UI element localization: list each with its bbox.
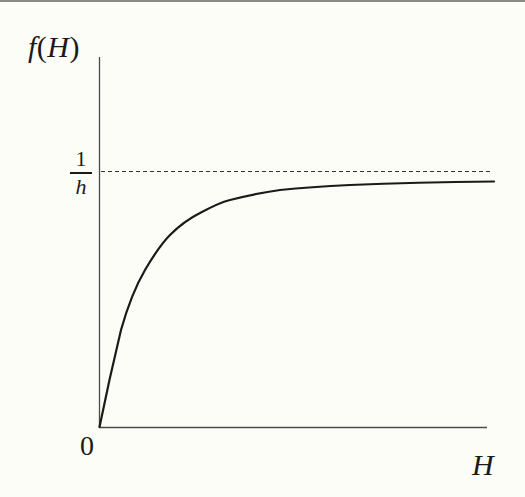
y-label-open-paren: (: [37, 30, 48, 63]
y-label-arg: H: [47, 30, 69, 63]
y-label-func: f: [28, 30, 37, 63]
y-axis-label: f(H): [28, 30, 80, 64]
y-label-close-paren: ): [70, 30, 81, 63]
asymptote-numerator: 1: [70, 148, 92, 170]
plot-area: [0, 0, 525, 497]
saturation-curve: [100, 182, 495, 428]
asymptote-denominator: h: [70, 176, 92, 198]
origin-label: 0: [80, 430, 94, 462]
x-axis-label: H: [472, 448, 494, 482]
asymptote-label: 1 h: [70, 148, 92, 198]
